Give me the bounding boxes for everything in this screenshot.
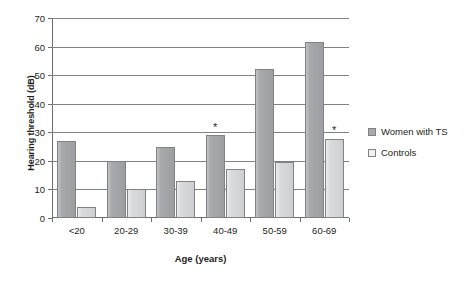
significance-asterisk: * [213, 124, 217, 130]
bar-group: <20 [52, 18, 102, 218]
bar [57, 141, 76, 218]
legend-item: Controls [368, 147, 466, 158]
chart-legend: Women with TSControls [368, 126, 466, 168]
x-axis-tick-label: 30-39 [164, 225, 188, 236]
y-axis-tick-label: 10 [34, 184, 45, 195]
y-axis-tick-label: 40 [34, 98, 45, 109]
y-axis-tick-label: 60 [34, 41, 45, 52]
y-axis-tick-label: 0 [40, 213, 45, 224]
bar [325, 139, 344, 218]
x-axis-tick-label: 50-59 [263, 225, 287, 236]
x-axis-tick [300, 218, 301, 222]
y-axis-title: Hearing threshold (dB) [26, 43, 36, 203]
x-axis-tick [250, 218, 251, 222]
x-axis-tick-label: <20 [69, 225, 85, 236]
x-axis-tick [349, 218, 350, 222]
bar [176, 181, 195, 218]
y-axis-tick-label: 20 [34, 155, 45, 166]
x-axis-tick-label: 40-49 [213, 225, 237, 236]
legend-swatch-icon [368, 149, 376, 157]
bar-group: 60-69 [300, 18, 350, 218]
chart-figure: Hearing threshold (dB) 010203040506070<2… [0, 0, 466, 282]
bar [156, 147, 175, 218]
legend-label: Women with TS [381, 126, 448, 137]
x-axis-tick [102, 218, 103, 222]
x-axis-tick [151, 218, 152, 222]
bar [305, 42, 324, 218]
bar [275, 162, 294, 218]
legend-swatch-icon [368, 128, 376, 136]
bar [206, 135, 225, 218]
significance-asterisk: * [332, 127, 336, 133]
plot-area: 010203040506070<2020-2930-3940-4950-5960… [52, 18, 349, 218]
bar [255, 69, 274, 218]
x-axis-title: Age (years) [52, 253, 349, 264]
y-axis-tick-label: 50 [34, 70, 45, 81]
x-axis-tick [52, 218, 53, 222]
legend-label: Controls [381, 147, 416, 158]
bar [127, 189, 146, 218]
bar-group: 40-49 [201, 18, 251, 218]
x-axis-tick-label: 60-69 [312, 225, 336, 236]
y-axis-tick-label: 70 [34, 13, 45, 24]
bar [226, 169, 245, 218]
bar-group: 20-29 [102, 18, 152, 218]
x-axis-tick [201, 218, 202, 222]
bar-group: 30-39 [151, 18, 201, 218]
bar [107, 161, 126, 218]
bar-group: 50-59 [250, 18, 300, 218]
y-axis-tick-label: 30 [34, 127, 45, 138]
x-axis-tick-label: 20-29 [114, 225, 138, 236]
legend-item: Women with TS [368, 126, 466, 137]
bar [77, 207, 96, 218]
